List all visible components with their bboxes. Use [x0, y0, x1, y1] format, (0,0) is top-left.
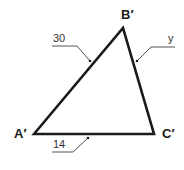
side-label-bc: y — [168, 33, 174, 44]
side-label-ab: 30 — [53, 33, 65, 44]
side-label-ac: 14 — [53, 139, 65, 150]
leader-dot-ac — [87, 137, 90, 140]
triangle-shape — [34, 28, 154, 134]
triangle-diagram: A′ B′ C′ 30 y 14 — [0, 0, 184, 170]
leader-line-ab — [52, 46, 90, 61]
leader-line-bc — [137, 47, 175, 61]
vertex-label-a: A′ — [14, 127, 27, 140]
vertex-label-c: C′ — [162, 127, 175, 140]
leader-dot-ab — [89, 60, 92, 63]
triangle-svg — [0, 0, 184, 170]
vertex-label-b: B′ — [121, 8, 134, 21]
leader-dot-bc — [136, 60, 139, 63]
